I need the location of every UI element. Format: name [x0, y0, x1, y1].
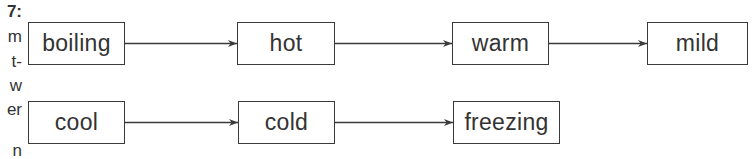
node-cool: cool: [28, 101, 125, 144]
node-label: warm: [472, 30, 529, 57]
node-label: boiling: [42, 30, 111, 57]
node-mild: mild: [647, 22, 748, 65]
node-boiling: boiling: [28, 22, 125, 65]
node-label: cool: [55, 109, 98, 136]
node-label: cold: [265, 109, 308, 136]
node-warm: warm: [452, 22, 549, 65]
node-label: hot: [270, 30, 303, 57]
node-label: mild: [676, 30, 719, 57]
node-label: freezing: [464, 109, 548, 136]
node-cold: cold: [238, 101, 335, 144]
node-freezing: freezing: [453, 101, 560, 144]
node-hot: hot: [237, 22, 335, 65]
